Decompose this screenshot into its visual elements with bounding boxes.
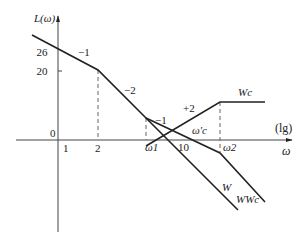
label-WWc: WWc [236,193,259,205]
origin-label: 0 [50,127,56,139]
slope-label-3: −1 [155,114,167,126]
label-W: W [222,181,232,193]
slope-label-4: +2 [183,102,195,114]
x-tick-1: 1 [63,142,69,154]
y-tick-26: 26 [37,46,49,58]
crossover-label: ω'c [192,124,207,136]
x-tick-omega2: ω2 [223,141,237,153]
bode-diagram: L(ω) 26 20 0 1 2 ω1 10 ω2 ω'c (lg) ω −1 … [0,0,298,240]
x-tick-10: 10 [178,141,190,153]
x-tick-2: 2 [95,142,101,154]
x-tick-omega1: ω1 [145,141,158,153]
x-axis-label: ω [282,144,290,158]
y-tick-20: 20 [37,65,49,77]
x-scale-label: (lg) [275,121,292,135]
label-Wc: Wc [238,86,252,98]
slope-label-2: −2 [124,84,136,96]
y-axis-label: L(ω) [33,12,56,25]
curve-W [32,35,238,210]
slope-label-1: −1 [78,46,90,58]
